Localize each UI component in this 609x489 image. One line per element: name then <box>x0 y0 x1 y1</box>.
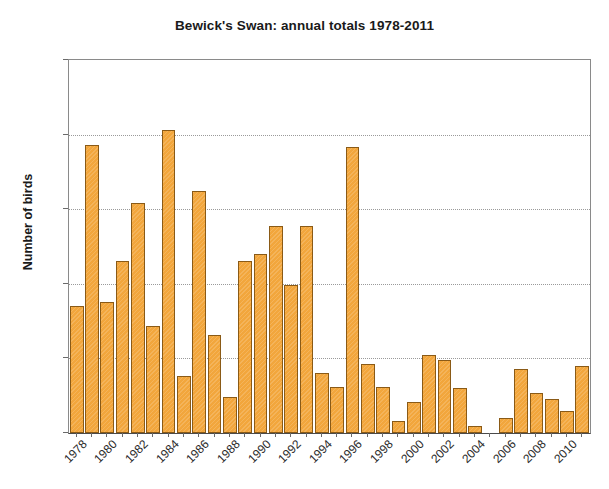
bar-1994 <box>315 373 329 433</box>
x-tick-mark-1980 <box>106 433 107 437</box>
x-tick-mark-1985 <box>183 433 184 437</box>
bar-1989 <box>238 261 252 433</box>
x-tick-mark-1989 <box>244 433 245 437</box>
x-tick-mark-2008 <box>535 433 536 437</box>
x-tick-mark-2000 <box>413 433 414 437</box>
x-tick-mark-2003 <box>459 433 460 437</box>
x-tick-label-1998: 1998 <box>359 437 396 474</box>
bar-1988 <box>223 397 237 433</box>
x-tick-mark-1987 <box>214 433 215 437</box>
x-tick-label-1994: 1994 <box>298 437 335 474</box>
bar-1997 <box>361 364 375 433</box>
bar-1999 <box>392 421 406 433</box>
x-tick-mark-2006 <box>505 433 506 437</box>
bar-2010 <box>560 411 574 433</box>
x-tick-label-1986: 1986 <box>175 437 212 474</box>
chart-title: Bewick's Swan: annual totals 1978-2011 <box>0 18 609 33</box>
y-axis-label: Number of birds <box>21 132 35 312</box>
x-tick-mark-1979 <box>91 433 92 437</box>
bar-1992 <box>284 285 298 433</box>
plot-area <box>68 59 591 434</box>
bar-1996 <box>346 147 360 433</box>
bar-series <box>69 60 590 433</box>
bar-2006 <box>499 418 513 433</box>
x-tick-mark-1995 <box>336 433 337 437</box>
bar-1993 <box>300 226 314 433</box>
x-tick-label-1992: 1992 <box>267 437 304 474</box>
bar-2000 <box>407 402 421 433</box>
bar-1990 <box>254 254 268 433</box>
bar-2011 <box>575 366 589 433</box>
x-tick-mark-2005 <box>489 433 490 437</box>
chart-page: Bewick's Swan: annual totals 1978-2011 N… <box>0 0 609 489</box>
x-tick-mark-1982 <box>137 433 138 437</box>
x-tick-label-2004: 2004 <box>451 437 488 474</box>
x-tick-mark-1997 <box>367 433 368 437</box>
bar-2009 <box>545 399 559 433</box>
x-tick-mark-2004 <box>474 433 475 437</box>
x-tick-mark-1998 <box>382 433 383 437</box>
x-tick-label-2000: 2000 <box>390 437 427 474</box>
bar-2004 <box>468 426 482 433</box>
x-tick-mark-1990 <box>260 433 261 437</box>
bar-2008 <box>530 393 544 433</box>
x-tick-label-1978: 1978 <box>53 437 90 474</box>
x-tick-label-1988: 1988 <box>206 437 243 474</box>
bar-2003 <box>453 388 467 433</box>
x-tick-mark-1986 <box>198 433 199 437</box>
x-tick-mark-1994 <box>321 433 322 437</box>
bar-2007 <box>514 369 528 433</box>
x-tick-label-1980: 1980 <box>83 437 120 474</box>
bar-1981 <box>116 261 130 433</box>
bar-1986 <box>192 191 206 433</box>
x-tick-mark-2010 <box>566 433 567 437</box>
bar-1998 <box>376 387 390 433</box>
bar-1983 <box>146 326 160 433</box>
bar-2001 <box>422 355 436 433</box>
x-tick-mark-2011 <box>581 433 582 437</box>
x-tick-mark-1993 <box>306 433 307 437</box>
x-tick-mark-2001 <box>428 433 429 437</box>
bar-2002 <box>438 360 452 433</box>
x-tick-mark-1988 <box>229 433 230 437</box>
bar-1987 <box>208 335 222 433</box>
x-tick-label-1984: 1984 <box>145 437 182 474</box>
x-tick-label-2002: 2002 <box>421 437 458 474</box>
bar-1978 <box>70 306 84 433</box>
bar-1979 <box>85 145 99 433</box>
x-tick-mark-2009 <box>551 433 552 437</box>
x-tick-mark-2002 <box>443 433 444 437</box>
x-tick-label-2008: 2008 <box>512 437 549 474</box>
x-tick-mark-1992 <box>290 433 291 437</box>
bar-1991 <box>269 226 283 433</box>
x-tick-mark-1978 <box>76 433 77 437</box>
x-tick-mark-2007 <box>520 433 521 437</box>
x-tick-mark-1981 <box>122 433 123 437</box>
bar-1984 <box>162 130 176 433</box>
x-tick-mark-1984 <box>168 433 169 437</box>
bar-1985 <box>177 376 191 433</box>
x-tick-mark-1999 <box>397 433 398 437</box>
bar-1980 <box>100 302 114 433</box>
x-tick-mark-1996 <box>351 433 352 437</box>
x-tick-mark-1983 <box>152 433 153 437</box>
x-tick-label-1990: 1990 <box>237 437 274 474</box>
bar-1982 <box>131 203 145 433</box>
x-tick-mark-1991 <box>275 433 276 437</box>
x-tick-label-1982: 1982 <box>114 437 151 474</box>
x-tick-label-2006: 2006 <box>482 437 519 474</box>
x-tick-label-2010: 2010 <box>543 437 580 474</box>
x-tick-label-1996: 1996 <box>329 437 366 474</box>
bar-1995 <box>330 387 344 433</box>
